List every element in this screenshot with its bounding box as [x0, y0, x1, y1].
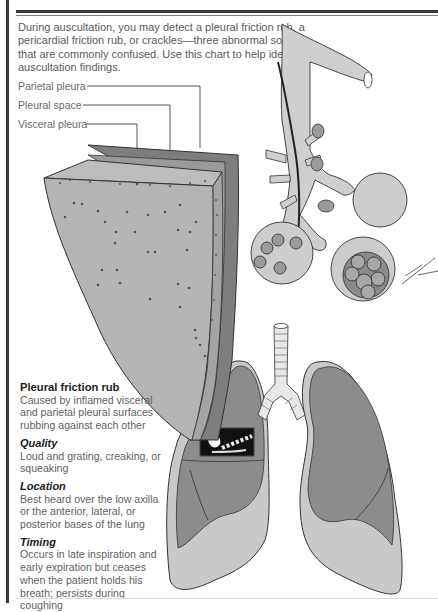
- panel-description: Caused by inflamed visceral and parietal…: [20, 394, 165, 432]
- section-heading-timing: Timing: [20, 536, 165, 549]
- trachea: [258, 324, 305, 421]
- label-visceral-pleura: Visceral pleura: [18, 118, 87, 130]
- label-parietal-pleura: Parietal pleura: [18, 80, 86, 92]
- bottom-rule: [16, 598, 438, 599]
- section-text-quality: Loud and grating, creaking, or squeaking: [20, 450, 165, 475]
- label-pleural-space: Pleural space: [18, 99, 82, 111]
- section-heading-quality: Quality: [20, 437, 165, 450]
- alveoli-clusters: [251, 173, 407, 301]
- panel-title: Pleural friction rub: [20, 381, 165, 394]
- bronchial-tree: [256, 24, 372, 252]
- pleural-friction-rub-panel: Pleural friction rub Caused by inflamed …: [20, 381, 165, 612]
- right-lung: [300, 361, 402, 594]
- sound-indicator-lines: [402, 258, 438, 284]
- section-text-location: Best heard over the low axilla or the an…: [20, 493, 165, 531]
- section-text-timing: Occurs in late inspiration and early exp…: [20, 548, 165, 612]
- section-heading-location: Location: [20, 480, 165, 493]
